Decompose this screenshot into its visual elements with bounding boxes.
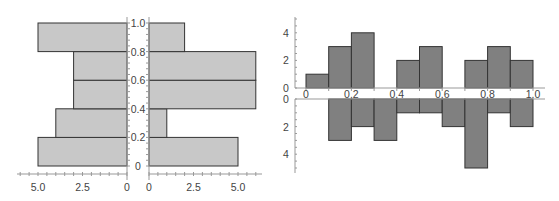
lower-bar — [374, 99, 397, 140]
x-tick-label: 0.8 — [480, 88, 495, 100]
lower-bar — [351, 99, 374, 127]
lower-bar — [465, 99, 488, 168]
x-tick-label: 1.0 — [526, 88, 541, 100]
right-bar — [149, 137, 238, 166]
chart-canvas: 00.20.40.60.81.05.02.5002.55.000.20.40.6… — [0, 0, 559, 201]
left-chart: 00.20.40.60.81.05.02.5002.55.0 — [17, 17, 262, 193]
y-tick-label: 4 — [283, 148, 289, 160]
right-chart: 00.20.40.60.81.0024024 — [283, 17, 545, 173]
y-tick-label: 1.0 — [131, 17, 146, 29]
x-tick-label: 2.5 — [186, 181, 201, 193]
x-tick-label: 0 — [124, 181, 130, 193]
right-bar — [149, 109, 167, 138]
x-tick-label: 5.0 — [31, 181, 46, 193]
left-bar — [38, 23, 127, 52]
upper-bar — [420, 47, 443, 88]
x-tick-label: 0.2 — [344, 88, 359, 100]
histogram-figure: 00.20.40.60.81.05.02.5002.55.000.20.40.6… — [0, 0, 559, 201]
y-tick-label: 2 — [283, 54, 289, 66]
left-bar — [74, 52, 127, 81]
y-tick-label: 4 — [283, 27, 289, 39]
x-tick-label: 0.6 — [435, 88, 450, 100]
upper-bar — [306, 74, 329, 88]
x-tick-label: 0 — [303, 88, 309, 100]
lower-bar — [442, 99, 465, 127]
right-bar — [149, 52, 256, 81]
upper-bar — [351, 33, 374, 88]
y-tick-label: 0.4 — [131, 103, 146, 115]
lower-bar — [397, 99, 420, 113]
right-bar — [149, 80, 256, 109]
lower-bar — [420, 99, 443, 113]
upper-bar — [397, 60, 420, 88]
y-tick-label: 2 — [283, 121, 289, 133]
left-bar — [56, 109, 127, 138]
lower-bar — [510, 99, 533, 127]
right-bar — [149, 23, 185, 52]
upper-bar — [488, 47, 511, 88]
x-tick-label: 5.0 — [231, 181, 246, 193]
y-tick-label: 0.8 — [131, 46, 146, 58]
left-bar — [38, 137, 127, 166]
upper-bar — [329, 47, 352, 88]
upper-bar — [510, 60, 533, 88]
lower-bar — [329, 99, 352, 140]
x-tick-label: 0.4 — [389, 88, 404, 100]
y-tick-label: 0.2 — [131, 131, 146, 143]
left-bar — [74, 80, 127, 109]
y-tick-label: 0.6 — [131, 74, 146, 86]
lower-bar — [488, 99, 511, 113]
x-tick-label: 0 — [146, 181, 152, 193]
y-tick-label: 0 — [283, 93, 289, 105]
x-tick-label: 2.5 — [75, 181, 90, 193]
y-tick-label: 0 — [135, 160, 141, 172]
upper-bar — [465, 60, 488, 88]
